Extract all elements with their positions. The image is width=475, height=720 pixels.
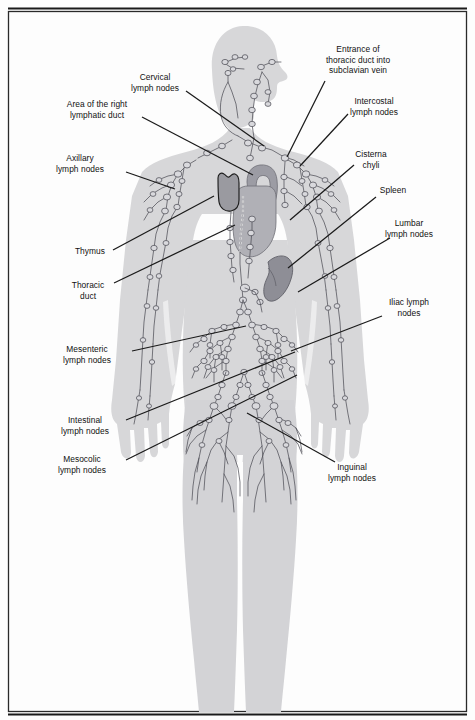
label-line: lymphatic duct <box>70 110 125 120</box>
label-line: subclavian vein <box>329 65 387 75</box>
label-intercostal-lymph-nodes: Intercostallymph nodes <box>350 96 398 117</box>
label-line: lymph nodes <box>56 164 104 174</box>
label-line: lymph nodes <box>131 83 179 93</box>
thymus <box>218 173 239 211</box>
label-line: Thymus <box>75 246 105 256</box>
label-intestinal-lymph-nodes: Intestinallymph nodes <box>61 415 109 436</box>
label-line: lymph nodes <box>350 107 398 117</box>
label-mesenteric-lymph-nodes: Mesentericlymph nodes <box>63 344 111 365</box>
label-line: Lumbar <box>395 218 424 228</box>
label-line: duct <box>80 291 97 301</box>
label-line: Inguinal <box>337 462 367 472</box>
label-line: chyli <box>362 160 379 170</box>
label-line: Mesenteric <box>66 344 107 354</box>
label-line: Intercostal <box>354 96 393 106</box>
label-spleen: Spleen <box>380 185 407 195</box>
label-line: Mesocolic <box>63 454 101 464</box>
label-line: thoracic duct into <box>326 55 391 65</box>
label-line: lymph nodes <box>63 355 111 365</box>
label-line: Entrance of <box>336 44 380 54</box>
label-line: Cervical <box>140 72 171 82</box>
label-line: Spleen <box>380 185 407 195</box>
label-line: Area of the right <box>67 99 128 109</box>
label-line: Intestinal <box>68 415 102 425</box>
label-line: Cisterna <box>355 149 387 159</box>
lymphatic-system-figure: Cervicallymph nodesArea of the rightlymp… <box>0 0 475 720</box>
label-line: Iliac lymph <box>389 297 429 307</box>
label-line: lymph nodes <box>385 229 433 239</box>
label-mesocolic-lymph-nodes: Mesocoliclymph nodes <box>58 454 106 475</box>
label-line: Thoracic <box>72 280 105 290</box>
label-thymus: Thymus <box>75 246 105 256</box>
label-line: Axillary <box>66 153 94 163</box>
label-line: lymph nodes <box>58 465 106 475</box>
label-line: nodes <box>397 308 420 318</box>
label-area-of-right-lymphatic-duct: Area of the rightlymphatic duct <box>67 99 128 120</box>
label-line: lymph nodes <box>328 473 376 483</box>
label-line: lymph nodes <box>61 426 109 436</box>
